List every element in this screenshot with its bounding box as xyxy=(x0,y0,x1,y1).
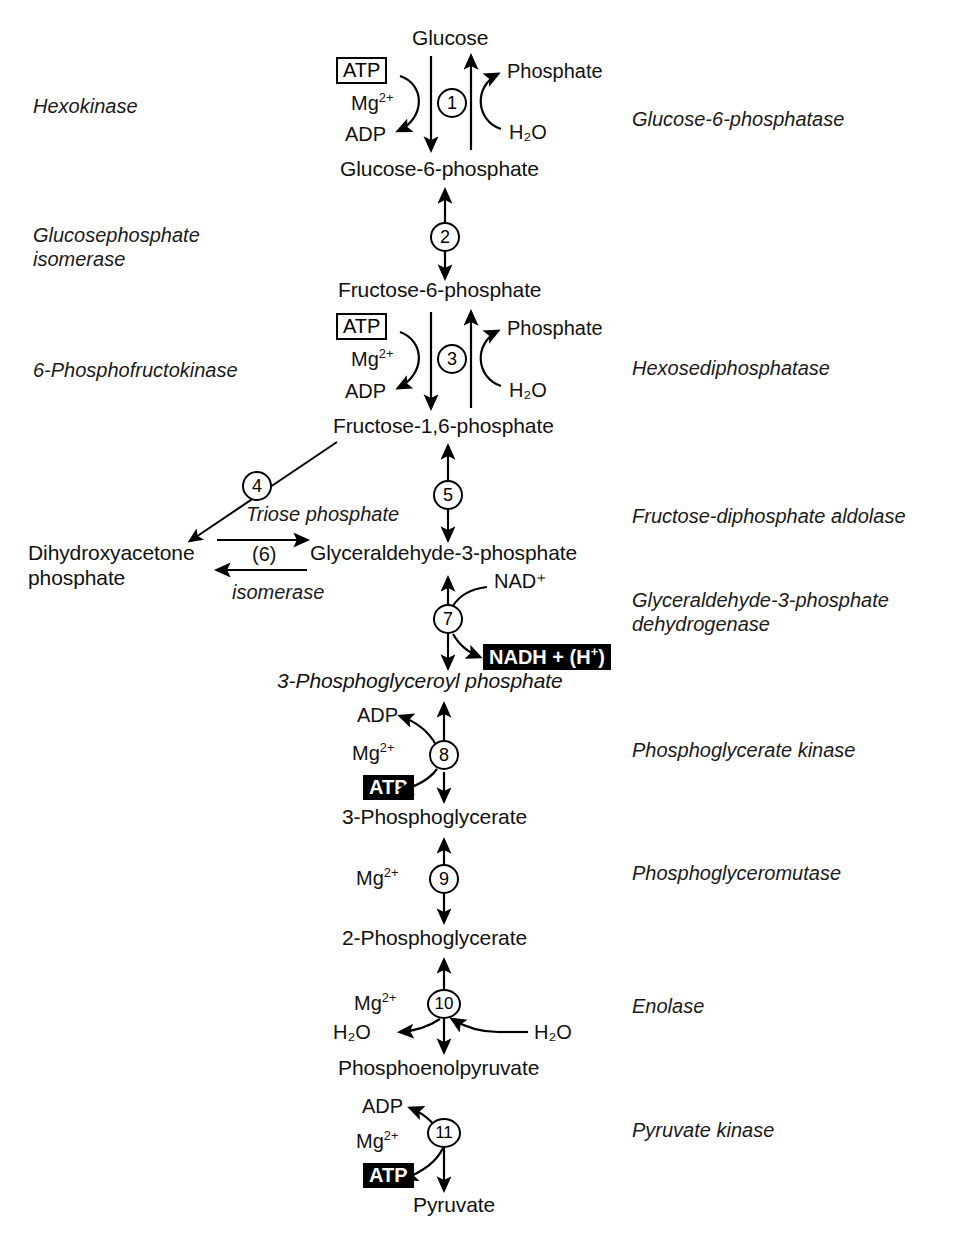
metabolite-phosphoenolpyruvate: Phosphoenolpyruvate xyxy=(338,1056,539,1080)
mg-label-step1: Mg2+ xyxy=(351,92,393,113)
mg-charge-step3: 2+ xyxy=(379,346,394,361)
nadh-close-paren: ) xyxy=(598,646,605,668)
nad-plus-label-step7: NAD⁺ xyxy=(494,571,547,591)
metabolite-2-phosphoglycerate: 2-Phosphoglycerate xyxy=(342,926,527,950)
mg-charge-step1: 2+ xyxy=(379,90,394,105)
mg-label-step11: Mg2+ xyxy=(356,1130,398,1151)
metabolite-fructose-1-6-phosphate: Fructose-1,6-phosphate xyxy=(333,414,554,438)
step-circle-3[interactable]: 3 xyxy=(437,344,467,374)
atp-label-step11: ATP xyxy=(363,1163,414,1188)
step-circle-4[interactable]: 4 xyxy=(242,471,272,501)
metabolite-dihydroxyacetone-phosphate-line2: phosphate xyxy=(28,566,125,590)
nadh-text: NADH + (H xyxy=(489,646,591,668)
metabolite-pyruvate: Pyruvate xyxy=(413,1193,495,1217)
metabolite-glucose: Glucose xyxy=(412,26,488,50)
step-circle-5[interactable]: 5 xyxy=(433,480,463,510)
mg-label-step8: Mg2+ xyxy=(352,742,394,763)
atp-box-step3: ATP xyxy=(336,313,387,340)
step-circle-7[interactable]: 7 xyxy=(433,604,463,634)
atp-box-step8: ATP xyxy=(363,775,414,800)
atp-box-step1: ATP xyxy=(336,57,387,84)
enzyme-triose-phosphate-isomerase: isomerase xyxy=(232,581,324,605)
water-label-step1: H₂O xyxy=(509,122,547,142)
enzyme-fructose-diphosphate-aldolase: Fructose-diphosphate aldolase xyxy=(632,505,906,529)
metabolite-glucose-6-phosphate: Glucose-6-phosphate xyxy=(340,157,539,181)
water-label-step10-left: H₂O xyxy=(333,1022,371,1042)
step-circle-11[interactable]: 11 xyxy=(427,1118,461,1148)
enzyme-gapdh-line2: dehydrogenase xyxy=(632,613,770,637)
enzyme-gapdh-line1: Glyceraldehyde-3-phosphate xyxy=(632,589,889,613)
mg-charge-step9: 2+ xyxy=(384,865,399,880)
mg-label-step3: Mg2+ xyxy=(351,348,393,369)
metabolite-fructose-6-phosphate: Fructose-6-phosphate xyxy=(338,278,541,302)
enzyme-phosphoglyceromutase: Phosphoglyceromutase xyxy=(632,862,841,886)
enzyme-glucosephosphate-isomerase-line2: isomerase xyxy=(33,248,125,272)
nadh-box-step7: NADH + (H+) xyxy=(483,644,611,670)
mg-charge-step10: 2+ xyxy=(382,990,397,1005)
mg-symbol-step8: Mg xyxy=(352,742,380,764)
water-label-step3: H₂O xyxy=(509,380,547,400)
mg-label-step9: Mg2+ xyxy=(356,867,398,888)
metabolite-dihydroxyacetone-phosphate-line1: Dihydroxyacetone xyxy=(28,541,195,565)
enzyme-pyruvate-kinase: Pyruvate kinase xyxy=(632,1119,774,1143)
mg-symbol-step1: Mg xyxy=(351,92,379,114)
metabolite-glyceraldehyde-3-phosphate: Glyceraldehyde-3-phosphate xyxy=(310,541,577,565)
nadh-label-step7: NADH + (H+) xyxy=(483,644,611,670)
adp-label-step3: ADP xyxy=(345,381,386,401)
water-label-step10-right: H₂O xyxy=(534,1022,572,1042)
enzyme-triose-phosphate: Triose phosphate xyxy=(246,503,399,527)
atp-label-step8: ATP xyxy=(363,775,414,800)
mg-symbol-step11: Mg xyxy=(356,1130,384,1152)
enzyme-glucose-6-phosphatase: Glucose-6-phosphatase xyxy=(632,108,844,132)
step-circle-10[interactable]: 10 xyxy=(427,989,461,1019)
mg-charge-step11: 2+ xyxy=(384,1128,399,1143)
enzyme-hexokinase: Hexokinase xyxy=(33,95,138,119)
phosphate-label-step1: Phosphate xyxy=(507,61,603,81)
metabolite-3-phosphoglyceroyl-phosphate: 3-Phosphoglyceroyl phosphate xyxy=(277,669,563,693)
step-circle-8[interactable]: 8 xyxy=(429,740,459,770)
step-circle-9[interactable]: 9 xyxy=(429,864,459,894)
step-circle-2[interactable]: 2 xyxy=(430,222,460,252)
atp-label-step1: ATP xyxy=(336,57,387,84)
enzyme-enolase: Enolase xyxy=(632,995,704,1019)
step-label-6: (6) xyxy=(252,543,276,566)
atp-box-step11: ATP xyxy=(363,1163,414,1188)
atp-label-step3: ATP xyxy=(336,313,387,340)
adp-label-step1: ADP xyxy=(345,124,386,144)
mg-charge-step8: 2+ xyxy=(380,740,395,755)
enzyme-hexosediphosphatase: Hexosediphosphatase xyxy=(632,357,830,381)
enzyme-6-phosphofructokinase: 6-Phosphofructokinase xyxy=(33,359,238,383)
adp-label-step8: ADP xyxy=(357,705,398,725)
enzyme-glucosephosphate-isomerase-line1: Glucosephosphate xyxy=(33,224,200,248)
mg-symbol-step9: Mg xyxy=(356,867,384,889)
enzyme-phosphoglycerate-kinase: Phosphoglycerate kinase xyxy=(632,739,855,763)
phosphate-label-step3: Phosphate xyxy=(507,318,603,338)
adp-label-step11: ADP xyxy=(362,1096,403,1116)
mg-label-step10: Mg2+ xyxy=(354,992,396,1013)
metabolite-3-phosphoglycerate: 3-Phosphoglycerate xyxy=(342,805,527,829)
mg-symbol-step10: Mg xyxy=(354,992,382,1014)
glycolysis-diagram-canvas: Glucose Glucose-6-phosphate Fructose-6-p… xyxy=(0,0,963,1247)
step-circle-1[interactable]: 1 xyxy=(437,88,467,118)
mg-symbol-step3: Mg xyxy=(351,348,379,370)
